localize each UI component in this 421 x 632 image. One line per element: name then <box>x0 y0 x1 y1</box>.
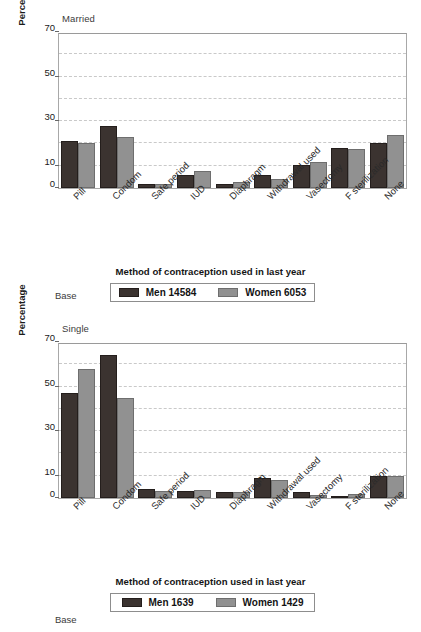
y-axis-tickmark <box>55 386 59 387</box>
legend-label-men: Men 14584 <box>146 287 197 298</box>
bar <box>293 492 310 498</box>
bar <box>138 489 155 498</box>
bar <box>61 393 78 498</box>
y-axis-tickmark <box>55 187 59 188</box>
x-axis-title-married: Method of contraception used in last yea… <box>0 266 421 277</box>
bar <box>138 184 155 188</box>
chart-panel-single: Single Percentage 010305070 PillCondomSa… <box>0 310 421 632</box>
bar-group <box>213 344 252 498</box>
y-axis-tick-70: 70 <box>44 22 55 33</box>
bar <box>216 492 233 498</box>
y-axis-tickmark <box>55 165 59 166</box>
legend-label-women: Women 6053 <box>245 287 306 298</box>
legend-item-women-married: Women 6053 <box>218 287 306 298</box>
x-axis-tick-labels-married: PillCondomSafe periodIUDDiaphragmWithdra… <box>58 194 407 254</box>
y-axis-tick-30: 30 <box>44 111 55 122</box>
y-axis-tickmark <box>55 341 59 342</box>
chart-panel-married: Married Percentage 010305070 PillCondomS… <box>0 0 421 316</box>
y-axis-tickmark <box>55 430 59 431</box>
y-axis-tick-10: 10 <box>44 465 55 476</box>
y-axis-tick-50: 50 <box>44 376 55 387</box>
bar <box>177 491 194 498</box>
legend-item-men-married: Men 14584 <box>119 287 197 298</box>
bar-group <box>59 34 98 188</box>
bar <box>100 355 117 498</box>
legend-swatch-women-icon <box>216 598 236 607</box>
legend-swatch-men-icon <box>122 598 142 607</box>
y-axis-label-married: Percentage <box>16 0 27 60</box>
y-axis-tickmark <box>55 120 59 121</box>
bar <box>100 126 117 188</box>
y-axis-tick-50: 50 <box>44 66 55 77</box>
y-axis-tick-10: 10 <box>44 155 55 166</box>
bar <box>331 496 348 498</box>
legend-swatch-women-icon <box>218 288 238 297</box>
legend-single: Men 1639 Women 1429 <box>110 593 315 612</box>
bar <box>216 184 233 188</box>
plot-area-married: 010305070 <box>58 33 407 189</box>
bar <box>61 141 78 188</box>
y-axis-tickmark <box>55 76 59 77</box>
panel-title-single: Single <box>62 323 89 334</box>
y-axis-label-single: Percentage <box>16 250 27 370</box>
y-axis-tick-70: 70 <box>44 332 55 343</box>
legend-item-men-single: Men 1639 <box>122 597 194 608</box>
panel-title-married: Married <box>62 13 95 24</box>
bar-series-single <box>59 344 406 498</box>
bar-series-married <box>59 34 406 188</box>
y-axis-tickmark <box>55 31 59 32</box>
bar-group <box>136 34 175 188</box>
bar-group <box>98 344 137 498</box>
plot-area-single: 010305070 <box>58 343 407 499</box>
bar <box>78 143 95 188</box>
legend-label-men: Men 1639 <box>149 597 194 608</box>
legend-married: Men 14584 Women 6053 <box>110 283 315 302</box>
legend-label-women: Women 1429 <box>243 597 304 608</box>
legend-swatch-men-icon <box>119 288 139 297</box>
x-axis-title-single: Method of contraception used in last yea… <box>0 576 421 587</box>
y-axis-tick-30: 30 <box>44 421 55 432</box>
bar-group <box>98 34 137 188</box>
bar-group <box>136 344 175 498</box>
bar <box>78 369 95 498</box>
bar-group <box>59 344 98 498</box>
x-axis-tick-labels-single: PillCondomSafe periodIUDDiaphragmWithdra… <box>58 504 407 564</box>
base-label-single: Base <box>55 614 77 625</box>
y-axis-tickmark <box>55 475 59 476</box>
base-label-married: Base <box>55 290 77 301</box>
bar-group <box>213 34 252 188</box>
y-axis-tickmark <box>55 497 59 498</box>
legend-item-women-single: Women 1429 <box>216 597 304 608</box>
